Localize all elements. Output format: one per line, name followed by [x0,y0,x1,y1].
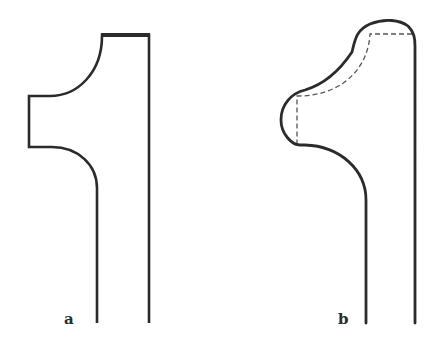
figure-canvas: a b [0,0,440,341]
panel-a-outline [29,35,149,323]
panel-a-label: a [64,310,74,328]
panel-b-label: b [338,310,349,328]
panel-b: b [281,20,415,328]
panel-b-dashed-original-outline [297,34,412,145]
panel-b-outline [281,20,415,323]
panel-a: a [29,35,150,328]
